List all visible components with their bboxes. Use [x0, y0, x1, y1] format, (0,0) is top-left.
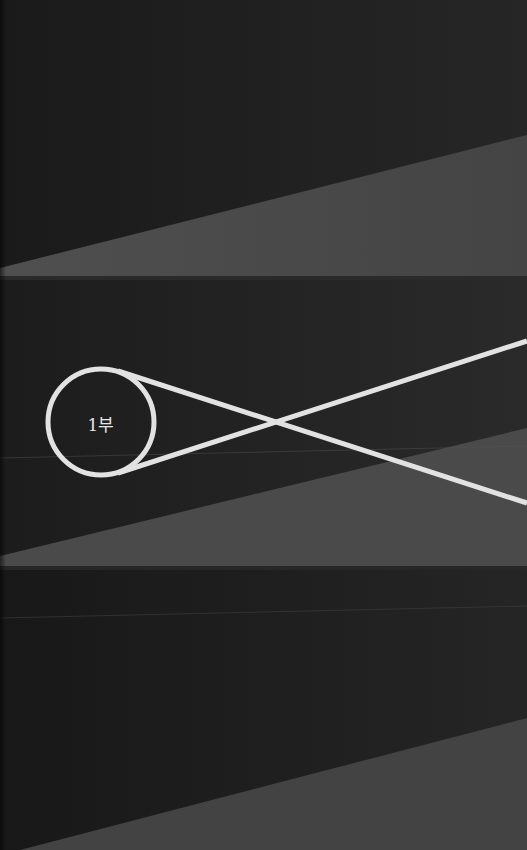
band-bottom [0, 570, 527, 850]
section-divider-page: 1부 [0, 0, 527, 850]
band-top-graphic [0, 0, 527, 280]
page-edge-shadow [0, 0, 6, 850]
part-label: 1부 [46, 368, 156, 478]
band-bottom-graphic [0, 570, 527, 850]
band-top [0, 0, 527, 280]
